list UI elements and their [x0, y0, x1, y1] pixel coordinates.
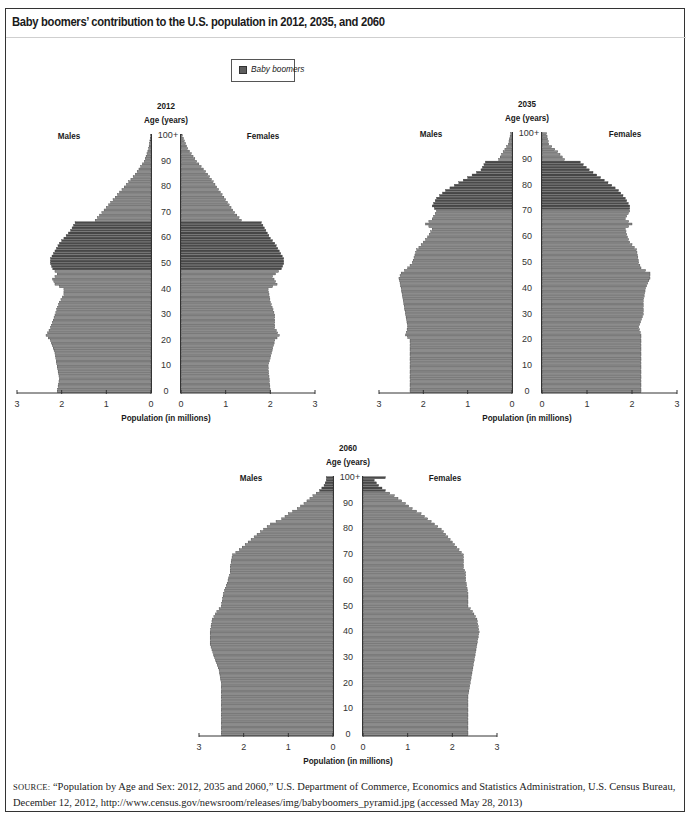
bar-female-age-60	[363, 580, 466, 582]
bar-female-age-17	[363, 690, 469, 692]
bar-male-age-19	[221, 685, 333, 687]
bar-male-age-7	[221, 716, 333, 718]
bar-female-age-36	[363, 641, 477, 643]
pop-tick-right-2: 2	[450, 742, 455, 752]
bar-female-age-53	[363, 598, 468, 600]
age-tick-20: 20	[343, 678, 353, 688]
bar-female-age-24	[363, 672, 472, 674]
bar-female-age-100	[363, 477, 385, 479]
bar-female-age-64	[363, 569, 465, 571]
bar-male-age-76	[251, 538, 333, 540]
bar-male-age-81	[267, 526, 333, 528]
bar-female-age-82	[363, 523, 434, 525]
bar-female-age-70	[363, 554, 464, 556]
bar-female-age-75	[363, 541, 452, 543]
bar-female-age-52	[363, 600, 468, 602]
pop-tick-right-3: 3	[494, 742, 499, 752]
bar-female-age-54	[363, 595, 468, 597]
bar-female-age-85	[363, 515, 424, 517]
bar-female-age-55	[363, 592, 468, 594]
bar-male-age-46	[214, 616, 333, 618]
bar-female-age-5	[363, 721, 468, 723]
bar-female-age-45	[363, 618, 477, 620]
bar-female-age-86	[363, 513, 421, 515]
bar-male-age-87	[293, 510, 333, 512]
bar-male-age-39	[210, 634, 333, 636]
bar-male-age-99	[326, 479, 333, 481]
bar-male-age-83	[276, 520, 333, 522]
source-text: “Population by Age and Sex: 2012, 2035 a…	[13, 781, 675, 808]
pop-tick-right-1: 1	[405, 742, 410, 752]
pop-tick-left-3: 3	[196, 742, 201, 752]
bar-male-age-17	[221, 690, 333, 692]
bar-male-age-15	[221, 695, 333, 697]
bar-female-age-11	[363, 705, 468, 707]
bar-female-age-83	[363, 520, 431, 522]
bar-male-age-2	[221, 729, 333, 731]
pop-tick-left-2: 2	[241, 742, 246, 752]
age-tick-80: 80	[343, 523, 353, 533]
bar-female-age-48	[363, 610, 472, 612]
bar-male-age-5	[221, 721, 333, 723]
pop-tick-left-1: 1	[286, 742, 291, 752]
bar-female-age-76	[363, 538, 450, 540]
age-axis-label: Age (years)	[326, 457, 370, 467]
bar-female-age-6	[363, 718, 468, 720]
source-note: SOURCE: “Population by Age and Sex: 2012…	[13, 779, 683, 810]
bar-male-age-3	[221, 726, 333, 728]
bar-male-age-57	[225, 587, 333, 589]
bar-male-age-52	[222, 600, 333, 602]
bar-female-age-7	[363, 716, 468, 718]
source-label: SOURCE:	[13, 782, 50, 792]
bar-female-age-97	[363, 484, 379, 486]
males-label: Males	[240, 473, 263, 483]
bar-male-age-60	[228, 580, 333, 582]
bar-male-age-74	[245, 544, 333, 546]
bar-male-age-95	[320, 490, 333, 492]
bar-female-age-13	[363, 700, 468, 702]
bar-male-age-98	[325, 482, 333, 484]
bar-female-age-56	[363, 590, 468, 592]
bar-male-age-29	[216, 659, 333, 661]
pop-tick-right-0: 0	[360, 742, 365, 752]
bar-female-age-72	[363, 549, 459, 551]
bar-female-age-19	[363, 685, 470, 687]
bar-male-age-25	[219, 669, 333, 671]
chart-title-2060: 2060	[339, 443, 357, 453]
bar-female-age-63	[363, 572, 466, 574]
bar-male-age-51	[222, 603, 333, 605]
bar-male-age-32	[213, 651, 333, 653]
bar-male-age-20	[221, 682, 333, 684]
bar-male-age-69	[232, 556, 333, 558]
bar-male-age-28	[216, 662, 333, 664]
age-tick-0: 0	[345, 729, 350, 739]
bar-male-age-92	[310, 497, 333, 499]
bar-male-age-62	[230, 574, 333, 576]
bar-female-age-10	[363, 708, 468, 710]
bar-male-age-44	[212, 621, 333, 623]
bar-male-age-8	[221, 713, 333, 715]
bar-male-age-77	[254, 536, 333, 538]
bar-male-age-27	[217, 664, 333, 666]
bar-female-age-14	[363, 698, 468, 700]
bar-female-age-68	[363, 559, 464, 561]
bar-female-age-22	[363, 677, 471, 679]
bar-male-age-4	[221, 723, 333, 725]
bar-male-age-97	[324, 484, 333, 486]
bar-female-age-80	[363, 528, 441, 530]
bar-female-age-51	[363, 603, 468, 605]
bar-male-age-16	[221, 693, 333, 695]
bar-female-age-1	[363, 731, 468, 733]
bar-male-age-53	[223, 598, 333, 600]
age-tick-70: 70	[343, 549, 353, 559]
bar-male-age-55	[224, 592, 333, 594]
bar-female-age-12	[363, 703, 468, 705]
bar-male-age-50	[221, 605, 333, 607]
bar-male-age-78	[257, 533, 333, 535]
bar-male-age-75	[248, 541, 333, 543]
females-label: Females	[429, 473, 461, 483]
bar-female-age-79	[363, 531, 443, 533]
bar-male-age-85	[285, 515, 333, 517]
bar-female-age-71	[363, 551, 461, 553]
bar-female-age-99	[363, 479, 374, 481]
